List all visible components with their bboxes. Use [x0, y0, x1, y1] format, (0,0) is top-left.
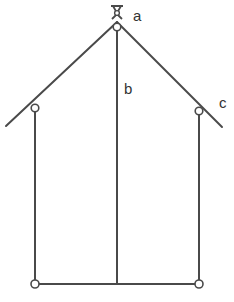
- label-c: c: [219, 94, 227, 111]
- bottom-left-joint: [31, 280, 39, 288]
- right-eave-joint: [195, 107, 203, 115]
- label-a: a: [133, 7, 142, 24]
- apex-pivot-icon: [111, 6, 123, 19]
- label-b: b: [124, 80, 132, 97]
- left-eave-joint: [31, 104, 39, 112]
- right-rafter: [117, 22, 222, 127]
- apex-joint: [113, 23, 121, 31]
- bottom-right-joint: [195, 280, 203, 288]
- truss-diagram: a b c: [0, 0, 234, 302]
- left-rafter: [6, 22, 117, 126]
